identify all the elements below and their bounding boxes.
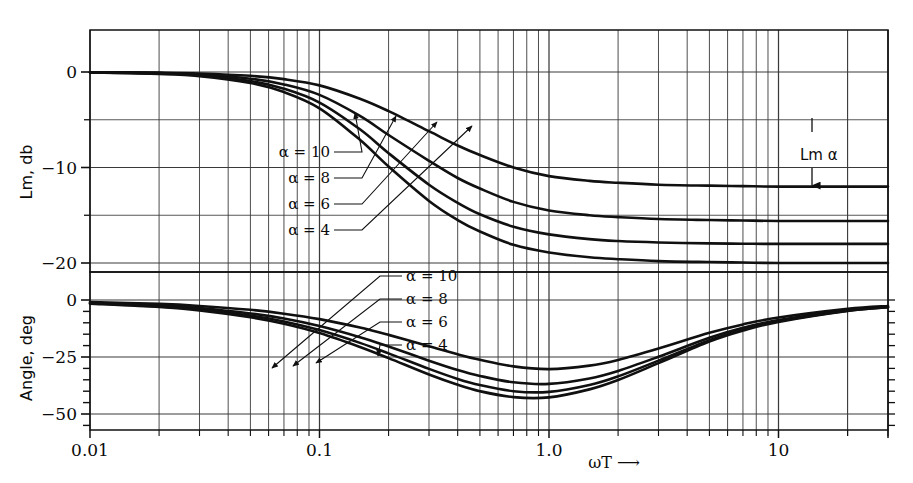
y-tick-label-phase: 0 [66, 290, 77, 310]
lm-alpha-label: Lm α [800, 146, 838, 164]
phase-curve-label: α = 8 [406, 290, 448, 308]
x-tick-label: 0.01 [71, 440, 109, 460]
phase-curve-label: α = 10 [406, 267, 457, 285]
x-axis-title: ωT ⟶ [588, 453, 640, 472]
phase-curve-label: α = 4 [406, 336, 448, 354]
x-tick-label: 0.1 [306, 440, 333, 460]
y-tick-label-magnitude: 0 [66, 62, 77, 82]
magnitude-curve-label: α = 4 [288, 221, 330, 239]
magnitude-curve-label: α = 6 [288, 195, 330, 213]
y-tick-label-phase: −25 [41, 347, 77, 367]
y-axis-title-phase: Angle, deg [17, 315, 36, 401]
magnitude-curve-label: α = 10 [279, 143, 330, 161]
magnitude-curve-label: α = 8 [288, 169, 330, 187]
bode-plot-figure: α = 10α = 8α = 6α = 4α = 10α = 8α = 6α =… [0, 0, 913, 483]
y-tick-label-magnitude: −10 [41, 158, 77, 178]
x-tick-label: 10 [768, 440, 790, 460]
bode-plot-svg: α = 10α = 8α = 6α = 4α = 10α = 8α = 6α =… [0, 0, 913, 483]
y-axis-title-magnitude: Lm, db [17, 145, 36, 200]
x-tick-label: 1.0 [535, 440, 562, 460]
y-tick-label-magnitude: −20 [41, 253, 77, 273]
phase-curve-label: α = 6 [406, 313, 448, 331]
y-tick-label-phase: −50 [41, 404, 77, 424]
